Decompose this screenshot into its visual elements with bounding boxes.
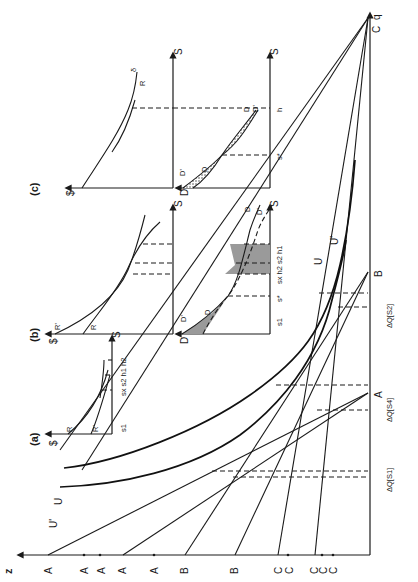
tick-B2: B — [229, 567, 240, 574]
panel-c-label-R: R — [138, 80, 147, 86]
panel-a: (a) $ S R R' s1 sx s2 h1 h2 — [28, 331, 128, 446]
tick-B1: B — [179, 567, 190, 574]
tick-A5: A — [96, 567, 107, 574]
panel-b-tick-sstar: s* — [275, 295, 284, 302]
panel-c-bottom-s-label: S — [269, 48, 280, 55]
interval-dq-s2: ΔQ[S2] — [385, 304, 394, 328]
panel-b-label-D-prime: D' — [179, 315, 188, 322]
tick-C2: C — [328, 567, 339, 574]
panel-c-dollar-label: $ — [65, 190, 76, 196]
panel-a-label-R: R — [65, 426, 74, 432]
panel-a-tick-s1: s1 — [119, 424, 128, 432]
label-U-lower: U — [313, 258, 324, 265]
q-axis-label: q — [371, 14, 382, 20]
panel-c-curve-R — [82, 72, 137, 188]
panel-a-curve-delta — [100, 360, 104, 398]
panel-c-label-D-prime-top: D' — [251, 105, 260, 112]
panel-b-s-label: S — [173, 200, 184, 207]
point-A: A — [373, 391, 384, 398]
panel-b-curve-R-prime — [55, 215, 145, 334]
label-U-prime-lower: U' — [329, 236, 340, 245]
economics-diagram-figure: z q C A A A A A B B C C C C C — [0, 0, 418, 582]
panel-b-label-D: D — [203, 309, 212, 315]
panel-b-ticks: sx h2 s2 h1 — [275, 246, 284, 284]
panel-b-tick-s1: s1 — [275, 318, 284, 326]
panel-b-top: (b) $ S R' R — [28, 200, 184, 344]
panel-c-title: (c) — [28, 182, 40, 196]
tick-A3: A — [117, 567, 128, 574]
tick-A2: A — [79, 567, 90, 574]
label-U: U — [53, 498, 64, 505]
panel-b-d-label: D — [179, 337, 190, 344]
panel-a-dollar-label: $ — [48, 440, 59, 446]
tick-A4: A — [149, 567, 160, 574]
panel-c-d-label: D — [179, 189, 190, 196]
budget-lines — [48, 18, 368, 555]
panel-a-title: (a) — [28, 432, 40, 446]
origin-label-c: C — [371, 26, 382, 33]
panel-c-label-D-top: D — [242, 106, 251, 112]
main-panel: z q C A A A A A B B C C C C C — [2, 14, 394, 574]
panel-c-top: (c) $ S δ R — [28, 48, 184, 196]
interval-dq-s1: ΔQ[S1] — [385, 468, 394, 492]
panel-b-curve-R — [83, 222, 160, 334]
panel-c-label-D: D — [200, 166, 209, 172]
z-axis-label: z — [2, 568, 14, 574]
panel-c-tick-sstar: s* — [275, 153, 284, 160]
panel-a-label-R-prime: R' — [91, 425, 100, 432]
panel-c-label-D-prime: D' — [178, 169, 187, 176]
tick-A1: A — [43, 567, 54, 574]
panel-b-label-R-prime: R' — [53, 323, 62, 330]
panel-a-ticks: sx s2 h1 h2 — [119, 358, 128, 396]
panel-b-bottom: D S D' D D D' s1 s* sx h2 s2 h1 — [178, 200, 284, 344]
panel-b-bottom-s-label: S — [269, 200, 280, 207]
panel-b-title: (b) — [28, 328, 40, 342]
tick-C1: C — [273, 567, 284, 574]
panel-c-tick-h: h — [275, 108, 284, 112]
panel-c-s-label: S — [173, 48, 184, 55]
point-B: B — [373, 270, 384, 277]
panel-b-label-R: R — [89, 324, 98, 330]
panel-b-label-D-top: D — [243, 206, 252, 212]
interval-dq-s4: ΔQ[S4] — [385, 398, 394, 422]
curve-U-prime — [60, 240, 346, 487]
panel-b-dollar-label: $ — [48, 338, 59, 344]
panel-c-hatched-area — [183, 110, 257, 188]
tick-C4: C — [284, 567, 295, 574]
panel-b-label-D-prime-top: D' — [255, 208, 264, 215]
panel-c-label-delta: δ — [129, 68, 138, 72]
panel-c-curve-D-prime — [183, 110, 256, 188]
label-U-prime: U' — [48, 519, 59, 528]
z-axis-tick-labels: A A A A A B B C C C C C — [43, 567, 339, 574]
panel-c-bottom: D S D' D D D' s* h — [173, 48, 284, 196]
panel-b-shaded-right — [225, 244, 270, 274]
panel-c-curve-delta — [112, 100, 135, 152]
